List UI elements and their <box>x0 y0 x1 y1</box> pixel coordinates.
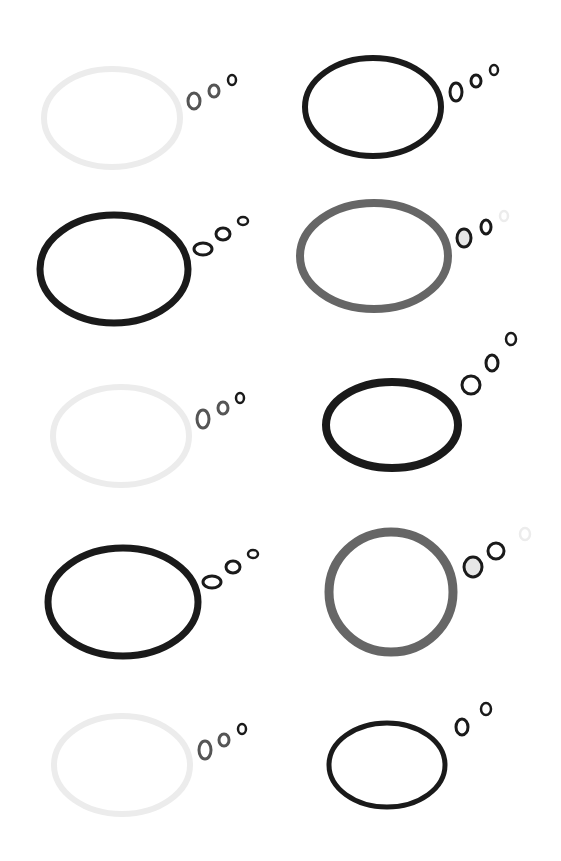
thought-bubble <box>40 215 248 323</box>
thought-dot-icon <box>500 211 508 221</box>
thought-dot-icon <box>199 741 211 759</box>
thought-bubble-icon <box>54 716 190 814</box>
thought-bubble <box>329 703 491 807</box>
thought-bubble-icon <box>329 723 445 807</box>
thought-bubble <box>329 528 530 652</box>
thought-dot-icon <box>481 220 491 234</box>
thought-dot-icon <box>236 393 244 403</box>
thought-dot-icon <box>486 355 498 371</box>
thought-dot-icon <box>490 65 498 75</box>
thought-dot-icon <box>506 333 516 345</box>
thought-dot-icon <box>197 410 209 428</box>
thought-bubble <box>48 548 258 656</box>
thought-dot-icon <box>203 576 221 588</box>
thought-dot-icon <box>457 229 471 247</box>
thought-bubble <box>53 387 244 485</box>
thought-bubble-icon <box>329 532 453 652</box>
thought-dot-icon <box>218 402 228 414</box>
thought-bubble <box>54 716 246 814</box>
thought-dot-icon <box>464 557 482 577</box>
thought-bubbles-canvas <box>0 0 561 861</box>
thought-dot-icon <box>216 228 230 240</box>
thought-dot-icon <box>450 83 462 101</box>
thought-bubble-icon <box>48 548 198 656</box>
thought-dot-icon <box>226 561 240 573</box>
thought-bubble-icon <box>305 58 441 156</box>
thought-dot-icon <box>248 550 258 558</box>
thought-dot-icon <box>188 93 200 109</box>
thought-dot-icon <box>219 734 229 746</box>
thought-dot-icon <box>194 243 212 255</box>
thought-dot-icon <box>462 376 480 394</box>
thought-bubble-icon <box>300 203 448 309</box>
thought-dot-icon <box>471 75 481 87</box>
thought-bubble <box>326 333 516 468</box>
thought-dot-icon <box>488 543 504 559</box>
thought-dot-icon <box>520 528 530 540</box>
thought-dot-icon <box>238 217 248 225</box>
thought-bubble-icon <box>53 387 189 485</box>
thought-bubble <box>44 69 236 167</box>
thought-dot-icon <box>238 724 246 734</box>
thought-dot-icon <box>228 75 236 85</box>
thought-bubble-icon <box>44 69 180 167</box>
thought-dot-icon <box>481 703 491 715</box>
thought-bubble <box>305 58 498 156</box>
thought-dot-icon <box>209 85 219 97</box>
thought-bubble-icon <box>326 382 458 468</box>
thought-dot-icon <box>456 719 468 735</box>
thought-bubble-icon <box>40 215 188 323</box>
thought-bubble <box>300 203 508 309</box>
